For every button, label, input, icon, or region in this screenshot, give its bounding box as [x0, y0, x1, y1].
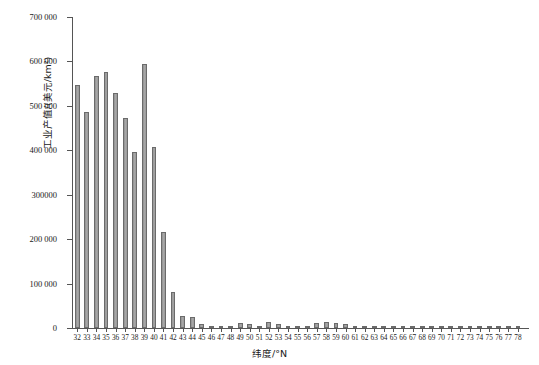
y-axis-tick [67, 17, 72, 18]
chart-title [0, 0, 539, 10]
x-axis-tick [374, 329, 375, 332]
bar [516, 326, 521, 328]
x-axis-tick [221, 329, 222, 332]
x-axis-tick-label: 58 [322, 333, 332, 343]
bar [381, 326, 386, 328]
x-axis-tick [173, 329, 174, 332]
x-axis-tick-label: 42 [168, 333, 178, 343]
y-axis-tick [67, 284, 72, 285]
x-axis-tick [269, 329, 270, 332]
x-axis-tick [346, 329, 347, 332]
bar [257, 326, 262, 328]
x-axis-tick [432, 329, 433, 332]
y-axis-tick-label: 600 000 [29, 57, 57, 66]
bar [132, 152, 137, 328]
bar [401, 326, 406, 328]
x-axis-tick-label: 74 [475, 333, 485, 343]
y-axis-tick-label: 100 000 [29, 280, 57, 289]
x-axis-tick-label: 59 [331, 333, 341, 343]
x-axis-tick-label: 75 [484, 333, 494, 343]
bar [219, 326, 224, 328]
x-axis-tick-label: 45 [197, 333, 207, 343]
x-axis-tick [508, 329, 509, 332]
y-axis-tick [67, 61, 72, 62]
bar [161, 232, 166, 328]
x-axis-tick [278, 329, 279, 332]
x-axis-tick [77, 329, 78, 332]
x-axis-tick [393, 329, 394, 332]
bar [391, 326, 396, 328]
bar [372, 326, 377, 328]
x-axis-tick [326, 329, 327, 332]
bar [439, 326, 444, 328]
x-axis-tick [422, 329, 423, 332]
x-axis-tick-label: 66 [398, 333, 408, 343]
x-axis-tick-label: 78 [513, 333, 523, 343]
bar [180, 316, 185, 328]
x-axis-tick [135, 329, 136, 332]
bar [343, 324, 348, 328]
x-axis-tick-label: 68 [417, 333, 427, 343]
x-axis-tick [365, 329, 366, 332]
bar [468, 326, 473, 328]
y-axis-tick-label: 200 000 [29, 235, 57, 244]
x-axis-tick [96, 329, 97, 332]
x-axis-tick-label: 34 [92, 333, 102, 343]
bar [228, 326, 233, 328]
x-axis-tick-label: 49 [235, 333, 245, 343]
x-axis-tick-label: 44 [187, 333, 197, 343]
bar [305, 326, 310, 328]
y-axis-tick-label: 700 000 [29, 13, 57, 22]
x-axis-tick [307, 329, 308, 332]
y-axis-tick [67, 195, 72, 196]
x-axis-tick [144, 329, 145, 332]
x-axis-tick-label: 37 [120, 333, 130, 343]
bar [171, 292, 176, 328]
x-axis-tick-label: 40 [149, 333, 159, 343]
y-axis-tick-label: 500 000 [29, 102, 57, 111]
x-axis-tick-label: 65 [389, 333, 399, 343]
bar [324, 322, 329, 328]
x-axis-tick-label: 33 [82, 333, 92, 343]
x-axis-tick [240, 329, 241, 332]
x-axis-tick-label: 61 [350, 333, 360, 343]
bar [247, 324, 252, 328]
x-axis-tick [116, 329, 117, 332]
x-axis-tick [211, 329, 212, 332]
y-axis-tick [67, 239, 72, 240]
bar [506, 326, 511, 328]
x-axis-tick [183, 329, 184, 332]
plot-area [72, 17, 528, 328]
x-axis-tick [317, 329, 318, 332]
bar [448, 326, 453, 328]
bar [276, 324, 281, 328]
x-axis-tick-label: 71 [446, 333, 456, 343]
bar [209, 326, 214, 328]
bar [314, 323, 319, 328]
x-axis-tick [298, 329, 299, 332]
x-axis-tick-label: 64 [379, 333, 389, 343]
bar [123, 118, 128, 328]
bar [496, 326, 501, 328]
x-axis-tick-label: 77 [504, 333, 514, 343]
bar [410, 326, 415, 328]
x-axis-tick [441, 329, 442, 332]
x-axis-tick [202, 329, 203, 332]
x-axis-tick [87, 329, 88, 332]
x-axis-tick [499, 329, 500, 332]
x-axis-tick-label: 73 [465, 333, 475, 343]
x-axis-tick [154, 329, 155, 332]
bar [104, 72, 109, 328]
x-axis-tick-label: 62 [360, 333, 370, 343]
x-axis-tick [403, 329, 404, 332]
x-axis-tick-label: 51 [254, 333, 264, 343]
x-axis-tick [470, 329, 471, 332]
x-axis-tick-label: 53 [274, 333, 284, 343]
bar [286, 326, 291, 328]
x-axis-tick [518, 329, 519, 332]
x-axis-tick [259, 329, 260, 332]
x-axis-tick-label: 70 [437, 333, 447, 343]
x-axis-tick-label: 52 [264, 333, 274, 343]
x-axis-tick-label: 60 [341, 333, 351, 343]
x-axis-tick-label: 67 [408, 333, 418, 343]
